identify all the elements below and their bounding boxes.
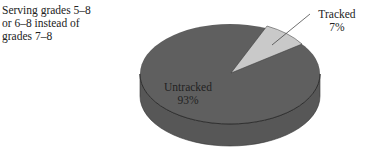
label-untracked-name: Untracked	[164, 81, 212, 93]
label-tracked-pct: 7%	[329, 21, 345, 33]
label-untracked-pct: 93%	[177, 94, 199, 106]
pie-chart: Tracked 7% Untracked 93%	[0, 0, 369, 156]
label-tracked-name: Tracked	[318, 8, 356, 20]
